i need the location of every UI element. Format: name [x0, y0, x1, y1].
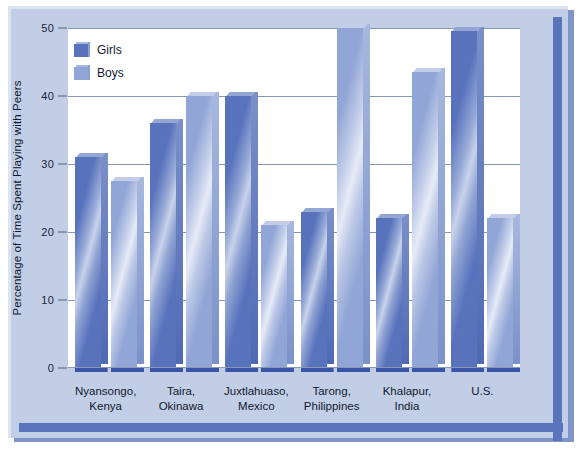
bar-cap [187, 92, 216, 96]
bar-boys-0 [111, 181, 137, 368]
bar-side [287, 221, 294, 364]
x-tick-label-line: Juxtlahuaso, [224, 384, 289, 399]
bar-front [186, 96, 212, 368]
bar-front [261, 225, 287, 368]
bar-cap [413, 68, 442, 72]
x-tick-label-4: Khalapur,India [383, 384, 432, 414]
x-tick-label-1: Taira,Okinawa [159, 384, 204, 414]
bar-cap [112, 177, 141, 181]
bar-girls-4 [376, 218, 402, 368]
y-tick-mark-10 [58, 300, 67, 301]
bar-side [513, 214, 520, 364]
bar-girls-1 [150, 123, 176, 368]
bar-front [111, 181, 137, 368]
y-tick-label-50: 50 [28, 22, 54, 34]
bar-front [487, 218, 513, 368]
bar-side [176, 119, 183, 364]
x-tick-label-2: Juxtlahuaso,Mexico [224, 384, 289, 414]
bar-girls-5 [451, 31, 477, 368]
x-tick-label-line: India [383, 399, 432, 414]
bar-front [301, 212, 327, 368]
bar-side [327, 208, 334, 364]
x-tick-label-line: Okinawa [159, 399, 204, 414]
bar-girls-0 [75, 157, 101, 368]
x-tick-label-line: Kenya [75, 399, 136, 414]
bar-side [363, 24, 370, 364]
bar-side [101, 153, 108, 364]
bar-boys-1 [186, 96, 212, 368]
legend-swatch-icon-girls [74, 44, 88, 57]
y-tick-mark-0 [58, 368, 67, 369]
y-tick-mark-20 [58, 232, 67, 233]
x-tick-label-0: Nyansongo,Kenya [75, 384, 136, 414]
x-tick-label-line: Nyansongo, [75, 384, 136, 399]
bar-girls-3 [301, 212, 327, 368]
bar-cap [453, 27, 482, 31]
bar-boys-5 [487, 218, 513, 368]
y-tick-mark-30 [58, 164, 67, 165]
chart-legend: GirlsBoys [74, 40, 124, 86]
bar-front [376, 218, 402, 368]
x-tick-label-line: Mexico [224, 399, 289, 414]
x-tick-label-line: Khalapur, [383, 384, 432, 399]
y-tick-label-10: 10 [28, 294, 54, 306]
bar-cap [263, 221, 292, 225]
x-tick-label-line: U.S. [471, 384, 493, 399]
frame-right-bar [553, 17, 562, 441]
legend-label: Boys [97, 66, 124, 80]
bar-cap [489, 214, 518, 218]
bar-side [438, 68, 445, 364]
legend-item-girls: Girls [74, 40, 124, 60]
bar-front [337, 28, 363, 368]
bar-side [402, 214, 409, 364]
y-tick-mark-50 [58, 28, 67, 29]
bar-front [412, 72, 438, 368]
legend-item-boys: Boys [74, 63, 124, 83]
bar-side [212, 92, 219, 364]
bar-front [75, 157, 101, 368]
bar-girls-2 [225, 96, 251, 368]
bar-front [150, 123, 176, 368]
bar-cap [302, 208, 331, 212]
y-tick-label-0: 0 [28, 362, 54, 374]
bar-side [477, 27, 484, 364]
y-tick-mark-40 [58, 96, 67, 97]
x-tick-label-5: U.S. [471, 384, 493, 399]
x-axis-line [68, 367, 520, 368]
x-tick-label-line: Tarong, [304, 384, 360, 399]
legend-swatch-icon-boys [74, 67, 88, 80]
bar-front [451, 31, 477, 368]
y-tick-label-20: 20 [28, 226, 54, 238]
x-tick-label-line: Taira, [159, 384, 204, 399]
bar-cap [151, 119, 180, 123]
x-axis-labels: Nyansongo,KenyaTaira,OkinawaJuxtlahuaso,… [68, 378, 520, 424]
bar-cap [377, 214, 406, 218]
bar-boys-4 [412, 72, 438, 368]
y-axis-title: Percentage of Time Spent Playing with Pe… [8, 28, 26, 368]
bar-front [225, 96, 251, 368]
bar-cap [227, 92, 256, 96]
bar-side [251, 92, 258, 364]
x-tick-label-line: Philippines [304, 399, 360, 414]
bar-cap [338, 24, 367, 28]
bar-boys-2 [261, 225, 287, 368]
x-tick-label-3: Tarong,Philippines [304, 384, 360, 414]
plot-area [68, 28, 520, 368]
bar-boys-3 [337, 28, 363, 368]
gridline-50 [68, 28, 520, 29]
y-axis-title-text: Percentage of Time Spent Playing with Pe… [11, 80, 23, 315]
chart-figure: Percentage of Time Spent Playing with Pe… [0, 0, 582, 452]
bar-cap [76, 153, 105, 157]
y-tick-label-40: 40 [28, 90, 54, 102]
frame-bottom-bar [19, 423, 563, 432]
bar-side [137, 177, 144, 364]
y-tick-label-30: 30 [28, 158, 54, 170]
legend-label: Girls [97, 43, 122, 57]
